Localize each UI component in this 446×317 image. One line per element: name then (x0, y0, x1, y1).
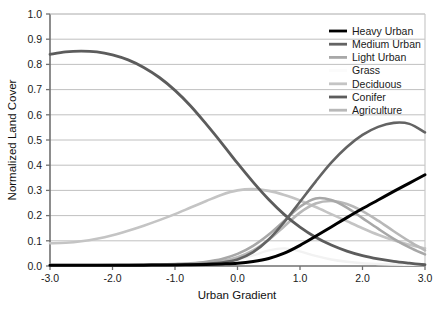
series-line-deciduous (50, 189, 425, 248)
y-tick-label: 0.1 (27, 235, 42, 247)
y-tick-labels: 0.00.10.20.30.40.50.60.70.80.91.0 (27, 8, 42, 272)
x-axis-title: Urban Gradient (198, 289, 277, 301)
y-tick-label: 0.8 (27, 58, 42, 70)
legend-label: Deciduous (352, 78, 402, 90)
y-tick-label: 0.0 (27, 260, 42, 272)
y-tick-label: 1.0 (27, 8, 42, 20)
x-tick-label: -2.0 (103, 272, 121, 284)
y-axis-title: Normalized Land Cover (6, 79, 18, 200)
legend-item[interactable]: Light Urban (329, 51, 406, 63)
x-tick-label: 3.0 (418, 272, 433, 284)
y-tick-label: 0.4 (27, 159, 42, 171)
legend-label: Light Urban (352, 51, 406, 63)
y-tick-label: 0.5 (27, 134, 42, 146)
x-tick-label: 1.0 (293, 272, 308, 284)
series-line-heavy-urban (50, 175, 425, 265)
legend-item[interactable]: Heavy Urban (329, 25, 413, 37)
legend-label: Conifer (352, 91, 386, 103)
legend-label: Agriculture (352, 104, 402, 116)
legend-label: Heavy Urban (352, 25, 413, 37)
y-tick-label: 0.6 (27, 109, 42, 121)
legend-item[interactable]: Agriculture (329, 104, 402, 116)
y-tick-label: 0.3 (27, 184, 42, 196)
line-chart: 0.00.10.20.30.40.50.60.70.80.91.0 -3.0-2… (0, 0, 446, 317)
legend-item[interactable]: Deciduous (329, 78, 402, 90)
series-line-medium-urban (50, 123, 425, 266)
y-tick-label: 0.9 (27, 33, 42, 45)
legend-item[interactable]: Conifer (329, 91, 386, 103)
chart-figure: 0.00.10.20.30.40.50.60.70.80.91.0 -3.0-2… (0, 0, 446, 317)
legend-item[interactable]: Grass (329, 64, 380, 76)
x-tick-label: 0.0 (230, 272, 245, 284)
x-tick-labels: -3.0-2.0-1.00.01.02.03.0 (41, 272, 432, 284)
legend-item[interactable]: Medium Urban (329, 38, 421, 50)
y-tick-label: 0.7 (27, 83, 42, 95)
legend: Heavy UrbanMedium UrbanLight UrbanGrassD… (329, 25, 421, 116)
x-tick-label: -1.0 (166, 272, 184, 284)
legend-label: Grass (352, 64, 380, 76)
x-tick-label: -3.0 (41, 272, 59, 284)
legend-label: Medium Urban (352, 38, 421, 50)
x-tick-label: 2.0 (355, 272, 370, 284)
series-line-agriculture (50, 201, 425, 265)
y-tick-label: 0.2 (27, 209, 42, 221)
